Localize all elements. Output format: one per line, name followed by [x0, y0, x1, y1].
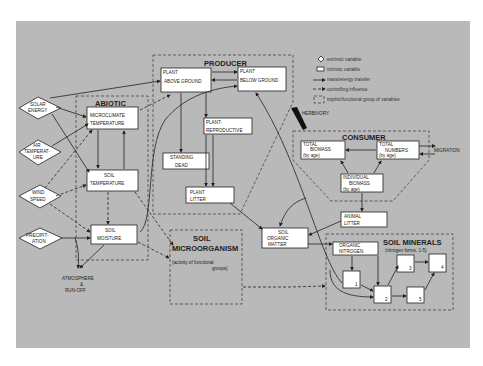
- svg-text:TEMPERAT-: TEMPERAT-: [24, 149, 50, 154]
- svg-text:INDIVIDUAL: INDIVIDUAL: [343, 175, 369, 180]
- svg-text:PLANT: PLANT: [190, 190, 205, 195]
- svg-text:SPEED: SPEED: [30, 197, 46, 202]
- svg-text:DEAD: DEAD: [175, 163, 188, 168]
- nitrogen-form-1-box: 1: [343, 271, 360, 288]
- svg-text:URE: URE: [33, 155, 43, 160]
- legend-intrinsic: intrinsic variable: [327, 67, 360, 72]
- precipitation-node: PRECIPIT- ATION: [19, 228, 62, 249]
- svg-text:(by age): (by age): [379, 153, 396, 158]
- svg-text:AIR: AIR: [33, 143, 41, 148]
- svg-text:ATION: ATION: [32, 239, 46, 244]
- wind-speed-node: WIND SPEED: [19, 185, 61, 208]
- box-legend-icon: [317, 67, 324, 71]
- microclimate-temperature-box: MICROCLIMATE TEMPERATURE: [87, 107, 138, 129]
- legend-controlling: controlling influence: [327, 87, 368, 92]
- soil-moisture-box: SOIL MOISTURE: [91, 225, 137, 244]
- soil-micro-sub-2: groups): [212, 266, 228, 271]
- svg-text:SOIL: SOIL: [104, 173, 115, 178]
- soil-minerals-title: SOIL MINERALS: [383, 238, 442, 247]
- svg-text:PLANT: PLANT: [163, 70, 178, 75]
- svg-text:BIOMASS: BIOMASS: [310, 147, 331, 152]
- svg-text:BELOW GROUND: BELOW GROUND: [240, 78, 279, 83]
- soil-temperature-box: SOIL TEMPERATURE: [87, 170, 138, 191]
- legend-mass-energy: mass/energy transfer: [327, 77, 371, 82]
- nitrogen-form-5-box: 5: [407, 287, 424, 303]
- svg-text:SOLAR: SOLAR: [30, 102, 46, 107]
- soil-organic-matter-box: SOIL ORGANIC MATTER: [262, 228, 308, 248]
- air-temperature-node: AIR TEMPERAT- URE: [19, 140, 61, 165]
- svg-text:SOIL: SOIL: [278, 230, 289, 235]
- soil-micro-title-2: MICROORGANISM: [172, 244, 238, 253]
- plant-above-ground-box: PLANT ABOVE GROUND: [161, 68, 211, 92]
- svg-text:ORGANIC: ORGANIC: [339, 243, 361, 248]
- soil-micro-sub-1: (activity of functional: [172, 260, 214, 265]
- svg-text:TOTAL: TOTAL: [379, 142, 394, 147]
- diamond-legend-icon: [318, 56, 324, 62]
- svg-text:TEMPERATURE: TEMPERATURE: [90, 121, 124, 126]
- svg-text:3: 3: [409, 266, 412, 271]
- legend-extrinsic: extrinsic variable: [327, 57, 362, 62]
- svg-text:STANDING: STANDING: [170, 155, 194, 160]
- runoff-label: RUN-OFF: [65, 288, 86, 293]
- soil-micro-title-1: SOIL: [193, 234, 211, 243]
- svg-text:2: 2: [385, 297, 388, 302]
- svg-text:REPRODUCTIVE: REPRODUCTIVE: [206, 128, 243, 133]
- svg-text:LITTER: LITTER: [344, 221, 361, 226]
- nitrogen-form-2-box: 2: [374, 286, 391, 303]
- svg-text:ANIMAL: ANIMAL: [344, 214, 362, 219]
- svg-text:(by age): (by age): [343, 187, 360, 192]
- plant-below-ground-box: PLANT BELOW GROUND: [238, 67, 286, 91]
- svg-text:MOISTURE: MOISTURE: [97, 236, 121, 241]
- migration-label: MIGRATION: [434, 148, 460, 153]
- svg-text:1: 1: [355, 282, 358, 287]
- total-numbers-box: TOTAL NUMBERS (by age): [377, 141, 419, 159]
- nitrogen-form-3-box: 3: [397, 255, 414, 272]
- ampersand-label: &: [80, 282, 83, 287]
- svg-text:(by age): (by age): [303, 153, 320, 158]
- ecosystem-diagram: extrinsic variable intrinsic variable ma…: [0, 0, 483, 366]
- legend-group: trophic/functional group of variables: [327, 97, 400, 102]
- svg-text:SOIL: SOIL: [105, 228, 116, 233]
- svg-text:NITROGEN: NITROGEN: [339, 249, 363, 254]
- plant-reproductive-box: PLANT- REPRODUCTIVE: [204, 118, 252, 134]
- individual-biomass-box: INDIVIDUAL BIOMASS (by age): [341, 174, 383, 192]
- nitrogen-form-4-box: 4: [429, 254, 446, 272]
- svg-text:4: 4: [441, 265, 444, 270]
- animal-litter-box: ANIMAL LITTER: [341, 212, 387, 227]
- plant-litter-box: PLANT LITTER: [186, 187, 234, 203]
- herbivory-label: HERBIVORY: [302, 111, 329, 116]
- total-biomass-box: TOTAL BIOMASS (by age): [301, 141, 345, 159]
- atmosphere-label: ATMOSPHERE: [62, 276, 94, 281]
- svg-text:ORGANIC: ORGANIC: [267, 236, 289, 241]
- solar-energy-node: SOLAR ENERGY: [19, 97, 61, 119]
- group-legend-icon: [314, 96, 324, 103]
- soil-minerals-sub: (nitrogen forms, 1-5): [385, 248, 427, 253]
- svg-text:LITTER: LITTER: [190, 197, 207, 202]
- svg-text:MATTER: MATTER: [268, 242, 287, 247]
- svg-text:5: 5: [419, 297, 422, 302]
- svg-text:ENERGY: ENERGY: [28, 108, 47, 113]
- svg-text:PRECIPIT-: PRECIPIT-: [26, 233, 49, 238]
- svg-text:WIND: WIND: [32, 190, 45, 195]
- svg-text:PLANT: PLANT: [240, 69, 255, 74]
- svg-text:BIOMASS: BIOMASS: [349, 181, 370, 186]
- organic-nitrogen-box: ORGANIC NITROGEN: [333, 242, 378, 255]
- legend: extrinsic variable intrinsic variable ma…: [313, 56, 400, 103]
- svg-text:PLANT-: PLANT-: [206, 120, 223, 125]
- standing-dead-box: STANDING DEAD: [163, 153, 209, 169]
- svg-text:TEMPERATURE: TEMPERATURE: [90, 181, 124, 186]
- svg-text:ABOVE GROUND: ABOVE GROUND: [164, 79, 202, 84]
- svg-text:MICROCLIMATE: MICROCLIMATE: [90, 113, 125, 118]
